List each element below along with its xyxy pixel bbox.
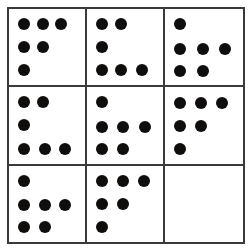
dot-matrix-puzzle [0,0,252,251]
dot [18,96,30,108]
dot [195,120,207,132]
dot [96,18,108,30]
dot [18,143,30,155]
matrix-cell-top-middle [87,9,165,87]
dot [96,41,108,53]
matrix-cell-bottom-left [9,166,87,242]
dot [174,65,186,77]
matrix-cell-top-left [9,9,87,87]
dot [139,121,151,133]
dot [39,199,51,211]
dot [197,43,209,55]
dot [216,97,228,109]
matrix-cell-top-right [165,9,243,87]
dot [96,121,108,133]
dot [18,119,30,131]
dot [117,121,129,133]
dot [117,198,129,210]
dot [96,96,108,108]
dot [96,198,108,210]
dot [96,175,108,187]
dot [174,120,186,132]
dot [96,221,108,233]
dot [195,97,207,109]
matrix-cell-middle-right [165,87,243,166]
dot [37,41,49,53]
matrix-cell-middle-left [9,87,87,166]
dot [174,43,186,55]
dot [136,64,148,76]
dot [18,64,30,76]
dot [18,18,30,30]
dot [18,221,30,233]
dot [39,143,51,155]
dot [59,199,71,211]
dot [18,199,30,211]
dot [174,143,186,155]
matrix-cell-bottom-middle [87,166,165,242]
dot [117,175,129,187]
dot [115,18,127,30]
dot [18,41,30,53]
dot [117,143,129,155]
empty-answer-cell [165,166,243,242]
dot [174,97,186,109]
dot [197,65,209,77]
matrix-grid [7,7,245,244]
dot [59,143,71,155]
dot [96,64,108,76]
dot [55,18,67,30]
matrix-cell-center [87,87,165,166]
dot [37,96,49,108]
dot [37,18,49,30]
dot [219,43,231,55]
dot [18,175,30,187]
matrix-cell-bottom-right [165,166,243,242]
dot [115,64,127,76]
dot [138,175,150,187]
dot [39,221,51,233]
dot [174,18,186,30]
dot [96,143,108,155]
